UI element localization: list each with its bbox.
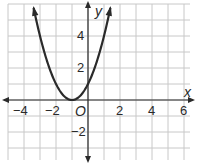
axes [2, 1, 195, 163]
x-tick-label: 6 [180, 104, 187, 117]
y-arrow-down-icon [85, 156, 91, 163]
x-axis-label: x [184, 85, 191, 99]
y-axis-label: y [95, 4, 102, 18]
x-arrow-left-icon [2, 97, 9, 103]
grid-lines [8, 4, 190, 160]
x-tick-label: 2 [116, 104, 123, 117]
curve-arrow-icon [32, 6, 38, 16]
x-tick-label: 4 [148, 104, 155, 117]
origin-label: O [75, 104, 86, 118]
x-tick-label: −4 [13, 104, 28, 117]
x-tick-label: −2 [45, 104, 60, 117]
coordinate-plane [0, 0, 197, 164]
y-tick-label: 2 [77, 61, 84, 74]
curve-arrow-icon [106, 6, 112, 16]
y-tick-label: −2 [71, 125, 86, 138]
y-tick-label: 4 [77, 29, 84, 42]
